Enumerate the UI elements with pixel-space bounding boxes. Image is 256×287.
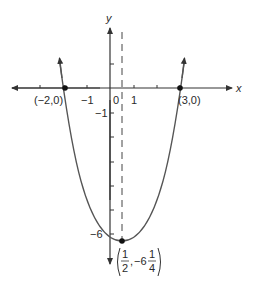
x-axis-label: x	[235, 82, 242, 94]
svg-text:1: 1	[122, 248, 128, 260]
root-point-right	[177, 85, 183, 91]
svg-text:2: 2	[122, 262, 128, 274]
root-label-right: (3,0)	[178, 94, 201, 106]
x-tick-label-zero: 0	[113, 94, 119, 106]
parabola-curve-right	[122, 64, 184, 241]
root-point-left	[62, 85, 68, 91]
vertex-label: 1 2 , −6 1 4	[118, 248, 161, 276]
svg-text:−6: −6	[134, 255, 147, 267]
parabola-diagram: x y −1 0 1 −1 −6 (−2,0) (3,0) 1	[0, 0, 256, 287]
svg-text:,: ,	[130, 255, 133, 267]
x-tick-label-neg1: −1	[81, 94, 94, 106]
y-tick-label-neg1: −1	[95, 107, 108, 119]
vertex-point	[119, 238, 125, 244]
root-label-left: (−2,0)	[34, 94, 63, 106]
parabola-curve	[60, 64, 122, 241]
y-axis-label: y	[105, 12, 113, 24]
svg-text:1: 1	[149, 248, 155, 260]
svg-text:4: 4	[149, 262, 155, 274]
y-tick-label-neg6: −6	[90, 228, 103, 240]
x-tick-label-one: 1	[131, 94, 137, 106]
